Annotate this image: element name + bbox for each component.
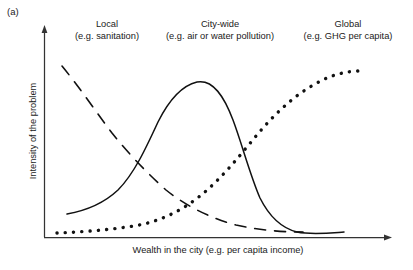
y-axis-arrowhead [42, 25, 48, 33]
figure-root: (a) Local (e.g. sanitation) City-wide (e… [0, 0, 413, 270]
axes-group [42, 25, 392, 240]
x-axis-arrowhead [384, 235, 392, 241]
series-line-citywide [67, 82, 344, 234]
plot-area [0, 0, 413, 270]
series-group [57, 66, 358, 234]
series-line-global [57, 71, 358, 233]
series-line-local [62, 66, 303, 232]
